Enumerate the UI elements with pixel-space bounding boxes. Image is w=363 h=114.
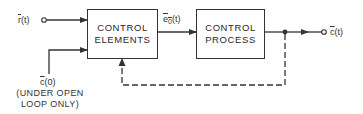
open-loop-note: (UNDER OPEN LOOP ONLY) xyxy=(12,88,88,110)
input-terminal-icon xyxy=(42,18,47,23)
initial-condition-label: c(0) xyxy=(40,77,56,87)
control-process-block: CONTROL PROCESS xyxy=(196,9,265,59)
block-label-line1: CONTROL xyxy=(97,22,148,34)
output-label: c(t) xyxy=(330,27,343,37)
control-elements-block: CONTROL ELEMENTS xyxy=(87,9,158,59)
reference-input-label: r(t) xyxy=(18,15,30,25)
block-label-line1: CONTROL xyxy=(205,22,256,34)
junction-dot-icon xyxy=(283,30,288,35)
block-label-line2: ELEMENTS xyxy=(94,34,150,46)
actuating-signal-label: e0(t) xyxy=(163,14,180,27)
output-terminal-icon xyxy=(322,30,327,35)
initial-condition-arrow xyxy=(49,50,87,74)
control-system-block-diagram: CONTROL ELEMENTS CONTROL PROCESS r(t) e0… xyxy=(0,0,363,114)
feedback-arrowhead-icon xyxy=(119,58,126,66)
block-label-line2: PROCESS xyxy=(205,34,256,46)
